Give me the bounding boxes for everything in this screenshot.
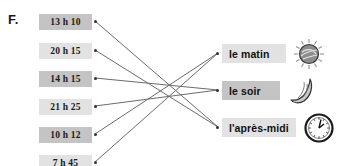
time-option[interactable]: 21 h 25 — [39, 99, 92, 115]
period-option[interactable]: le matin — [222, 44, 286, 63]
time-connector-dot[interactable] — [94, 20, 97, 23]
clock-icon-wrapper — [302, 111, 336, 149]
connection-line — [95, 21, 218, 127]
exercise-letter: F. — [8, 12, 19, 27]
time-option-label: 20 h 15 — [50, 46, 80, 56]
period-connector-dot[interactable] — [216, 52, 219, 55]
period-option[interactable]: l'après-midi — [222, 118, 296, 137]
time-connector-dot[interactable] — [94, 133, 97, 136]
connection-line — [95, 53, 218, 162]
moon-icon — [286, 74, 320, 108]
time-option-label: 7 h 45 — [53, 158, 78, 166]
time-option-label: 13 h 10 — [50, 17, 80, 27]
clock-icon — [302, 111, 336, 145]
time-option-label: 10 h 12 — [50, 130, 80, 140]
time-connector-dot[interactable] — [94, 105, 97, 108]
time-option[interactable]: 14 h 15 — [39, 71, 92, 87]
time-connector-dot[interactable] — [94, 161, 97, 164]
connection-line — [95, 53, 218, 134]
time-option[interactable]: 10 h 12 — [39, 127, 92, 143]
sun-icon-wrapper — [292, 37, 326, 75]
connection-line — [95, 90, 218, 106]
time-option-label: 21 h 25 — [50, 102, 80, 112]
period-connector-dot[interactable] — [216, 126, 219, 129]
moon-icon-wrapper — [286, 74, 320, 112]
time-option-label: 14 h 15 — [50, 74, 80, 84]
period-connector-dot[interactable] — [216, 89, 219, 92]
period-option-label: le matin — [229, 48, 269, 60]
time-connector-dot[interactable] — [94, 77, 97, 80]
connection-line — [95, 78, 218, 90]
connection-line — [95, 50, 218, 127]
time-option[interactable]: 20 h 15 — [39, 43, 92, 59]
time-option[interactable]: 7 h 45 — [39, 155, 92, 166]
period-option[interactable]: le soir — [222, 81, 280, 100]
sun-icon — [292, 37, 326, 71]
time-connector-dot[interactable] — [94, 49, 97, 52]
period-option-label: le soir — [229, 85, 261, 97]
matching-exercise: F. 13 h 1020 h 1514 h 1521 h 2510 h 127 … — [0, 0, 342, 166]
period-option-label: l'après-midi — [229, 122, 289, 134]
time-option[interactable]: 13 h 10 — [39, 14, 92, 30]
